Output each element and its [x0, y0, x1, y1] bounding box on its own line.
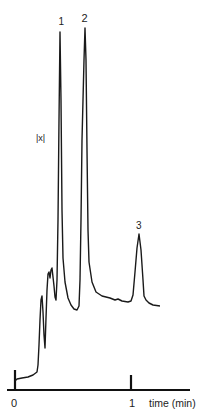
x-tick-label-1: 1 [129, 397, 135, 409]
chromatogram: 1 2 3 |x| 0 1 time (min) [0, 0, 206, 414]
peak-2-label: 2 [82, 12, 88, 24]
attenuation-label: |x| [36, 133, 45, 143]
x-tick-label-0: 0 [11, 397, 17, 409]
peak-1-label: 1 [59, 16, 65, 27]
signal-trace [15, 28, 160, 381]
peak-3-label: 3 [136, 220, 142, 231]
x-axis-title: time (min) [149, 397, 196, 409]
